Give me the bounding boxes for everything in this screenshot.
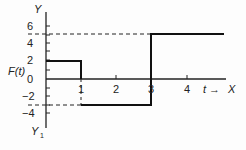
y-tick-4: 4 [27,37,33,49]
x-tick-4: 4 [184,83,190,95]
y-axis-label: Y [34,3,42,15]
segment-0-1 [46,61,81,79]
f-label: F(t) [8,65,25,77]
t-arrow-label: t → [203,83,220,95]
y1-label: Y [31,125,39,137]
y-tick-neg2: −2 [22,90,35,102]
y-tick-0: 0 [27,73,33,85]
x-axis-label: X [227,83,236,95]
segment-3-on [151,34,224,79]
x-tick-1: 1 [78,83,84,95]
x-tick-3: 3 [148,83,154,95]
y-tick-2: 2 [27,54,33,66]
y-tick-neg4: −4 [22,107,35,119]
plot: Y 6 4 2 0 −2 −4 F(t) Y 1 1 2 3 4 t → X [0,0,246,150]
y-tick-6: 6 [27,20,33,32]
step-function-diagram: Y 6 4 2 0 −2 −4 F(t) Y 1 1 2 3 4 t → X [0,0,246,150]
x-tick-2: 2 [113,83,119,95]
y1-subscript: 1 [40,132,44,139]
